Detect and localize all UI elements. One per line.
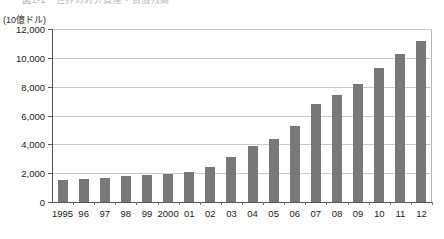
figure-root: 図1-1 世界の対外資産・負債残高 (10億ドル) 02,0004,0006,0… <box>0 0 444 239</box>
bar-slot <box>326 29 347 202</box>
bar-slot <box>242 29 263 202</box>
y-tick-label-2000: 2,000 <box>21 169 45 179</box>
bar-slot <box>348 29 369 202</box>
bar-slot <box>179 29 200 202</box>
bar-06 <box>290 126 300 202</box>
y-tick-label-10000: 10,000 <box>16 53 45 63</box>
x-tick-mark <box>284 202 285 205</box>
plot-area: 02,0004,0006,0008,00010,00012,000 <box>52 29 432 202</box>
bar-slot <box>73 29 94 202</box>
y-axis-line <box>52 29 53 203</box>
x-tick-label-06: 06 <box>289 208 300 219</box>
bar-12 <box>416 41 426 202</box>
bar-slot <box>115 29 136 202</box>
x-tick-mark <box>369 202 370 205</box>
bar-98 <box>121 176 131 202</box>
x-tick-label-07: 07 <box>311 208 322 219</box>
bar-10 <box>374 68 384 202</box>
bar-slot <box>52 29 73 202</box>
bar-11 <box>395 54 405 202</box>
x-tick-mark <box>115 202 116 205</box>
bar-01 <box>184 172 194 202</box>
bar-slot <box>284 29 305 202</box>
bar-slot <box>263 29 284 202</box>
y-tick-label-12000: 12,000 <box>16 25 45 35</box>
x-tick-mark <box>158 202 159 205</box>
bar-slot <box>390 29 411 202</box>
bar-slot <box>305 29 326 202</box>
x-tick-label-03: 03 <box>226 208 237 219</box>
x-tick-mark <box>200 202 201 205</box>
bar-slot <box>136 29 157 202</box>
bar-04 <box>248 146 258 202</box>
bar-series <box>52 29 432 202</box>
x-tick-mark <box>94 202 95 205</box>
y-tick-label-6000: 6,000 <box>21 111 45 121</box>
x-tick-mark <box>136 202 137 205</box>
x-tick-label-96: 96 <box>78 208 89 219</box>
x-tick-mark <box>432 202 433 205</box>
bar-02 <box>205 167 215 202</box>
y-tick-label-4000: 4,000 <box>21 140 45 150</box>
x-tick-mark <box>242 202 243 205</box>
x-tick-label-08: 08 <box>332 208 343 219</box>
x-tick-label-97: 97 <box>99 208 110 219</box>
y-tick-label-0: 0 <box>40 198 45 208</box>
bar-03 <box>226 157 236 202</box>
x-tick-mark <box>221 202 222 205</box>
y-tick-label-8000: 8,000 <box>21 82 45 92</box>
x-tick-label-01: 01 <box>184 208 195 219</box>
x-tick-mark <box>390 202 391 205</box>
bar-2000 <box>163 174 173 202</box>
x-tick-label-12: 12 <box>416 208 427 219</box>
bar-slot <box>221 29 242 202</box>
figure-title: 図1-1 世界の対外資産・負債残高 <box>22 0 170 5</box>
x-tick-label-99: 99 <box>142 208 153 219</box>
x-tick-label-05: 05 <box>268 208 279 219</box>
bar-09 <box>353 84 363 202</box>
x-tick-label-98: 98 <box>121 208 132 219</box>
bar-99 <box>142 175 152 202</box>
bar-07 <box>311 104 321 202</box>
x-tick-label-04: 04 <box>247 208 258 219</box>
bar-slot <box>411 29 432 202</box>
bar-1995 <box>58 180 68 202</box>
bar-96 <box>79 179 89 202</box>
x-tick-mark <box>326 202 327 205</box>
x-tick-label-09: 09 <box>353 208 364 219</box>
x-tick-mark <box>305 202 306 205</box>
bar-slot <box>200 29 221 202</box>
x-tick-label-1995: 1995 <box>52 208 73 219</box>
x-tick-label-11: 11 <box>395 208 405 219</box>
bar-slot <box>158 29 179 202</box>
bar-97 <box>100 178 110 202</box>
bar-slot <box>369 29 390 202</box>
bar-08 <box>332 95 342 202</box>
x-tick-label-10: 10 <box>374 208 385 219</box>
x-tick-mark <box>263 202 264 205</box>
x-tick-label-02: 02 <box>205 208 216 219</box>
x-tick-mark <box>73 202 74 205</box>
bar-slot <box>94 29 115 202</box>
x-tick-mark <box>179 202 180 205</box>
x-tick-mark <box>348 202 349 205</box>
x-tick-label-2000: 2000 <box>158 208 179 219</box>
x-tick-mark <box>411 202 412 205</box>
bar-05 <box>269 139 279 202</box>
